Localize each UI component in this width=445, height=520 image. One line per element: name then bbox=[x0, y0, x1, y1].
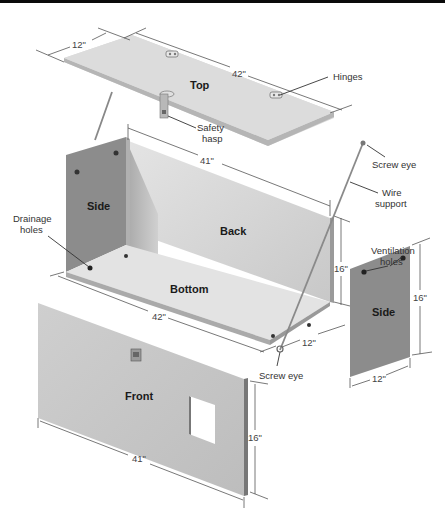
hinge-icon bbox=[166, 51, 178, 57]
front-height-dimension: 16" bbox=[248, 381, 268, 499]
ventilation-hole-icon bbox=[114, 151, 119, 156]
back-width-value: 41" bbox=[200, 155, 214, 166]
front-panel: Front bbox=[38, 303, 248, 496]
wire-support-left bbox=[95, 92, 112, 140]
top-depth-value: 12" bbox=[72, 39, 86, 50]
back-height-dimension: 16" bbox=[334, 216, 350, 306]
drainage-hole-icon bbox=[271, 334, 275, 338]
screw-eye-bottom-callout: Screw eye bbox=[259, 370, 303, 381]
ventilation-hole-icon bbox=[75, 170, 80, 175]
side-right-label: Side bbox=[372, 306, 395, 318]
drainage-callout-line2: holes bbox=[20, 224, 43, 235]
screw-eye-icon bbox=[361, 141, 366, 146]
hasp-staple-icon bbox=[131, 349, 141, 361]
back-panel-label: Back bbox=[220, 225, 247, 237]
safety-hasp-callout-line2: hasp bbox=[202, 133, 223, 144]
ventilation-hole-icon bbox=[361, 269, 366, 274]
ventilation-callout-line1: Ventilation bbox=[371, 245, 415, 256]
side-right-width-value: 12" bbox=[372, 373, 386, 384]
top-width-value: 42" bbox=[232, 68, 246, 79]
front-panel-label: Front bbox=[125, 390, 153, 402]
screw-eye-top-callout: Screw eye bbox=[372, 159, 416, 170]
bottom-width-value: 42" bbox=[152, 311, 166, 322]
safety-hasp-callout-line1: Safety bbox=[197, 122, 224, 133]
wire-support-callout-line2: support bbox=[375, 198, 407, 209]
wire-support-callout-line1: Wire bbox=[382, 187, 402, 198]
box-assembly-diagram: Top 12" 42" Hinges Safety hasp bbox=[0, 0, 445, 520]
bottom-panel-label: Bottom bbox=[170, 283, 209, 295]
front-width-value: 41" bbox=[132, 453, 146, 464]
side-right-height-value: 16" bbox=[413, 292, 427, 303]
bottom-depth-value: 12" bbox=[302, 337, 316, 348]
top-panel-label: Top bbox=[190, 79, 210, 91]
front-height-value: 16" bbox=[248, 432, 262, 443]
drainage-hole-icon bbox=[124, 254, 128, 258]
drainage-hole-icon bbox=[307, 323, 311, 327]
hinges-callout: Hinges bbox=[333, 71, 363, 82]
back-height-value: 16" bbox=[334, 263, 348, 274]
side-left-label: Side bbox=[87, 200, 110, 212]
drainage-callout-line1: Drainage bbox=[13, 213, 52, 224]
side-right-height-dimension: 16" bbox=[412, 238, 432, 355]
